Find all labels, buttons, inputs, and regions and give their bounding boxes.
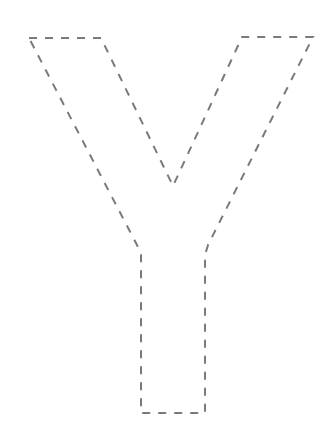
letter-y-outline-figure <box>0 0 335 433</box>
letter-y-dashed-outline <box>29 37 313 413</box>
